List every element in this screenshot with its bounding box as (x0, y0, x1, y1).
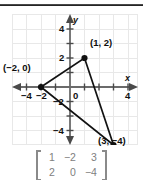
matrix-cell-r2c2: 0 (58, 165, 79, 180)
y-axis-label: y (73, 16, 78, 25)
matrix-cell-r1c3: 3 (79, 150, 100, 165)
y-tick-label-2: 2 (59, 53, 64, 63)
matrix: 1 −2 3 2 0 −4 (36, 150, 107, 180)
matrix-cell-r1c1: 1 (43, 150, 58, 165)
matrix-figure: 1 −2 3 2 0 −4 (0, 150, 143, 187)
matrix-left-bracket (36, 150, 42, 180)
coordinate-plane-svg (12, 14, 138, 145)
matrix-cell-r2c1: 2 (43, 165, 58, 180)
point-label-a: (−2, 0) (3, 63, 31, 73)
y-tick-label-minus-2: −2 (53, 97, 64, 107)
x-tick-label-origin: 0 (73, 91, 78, 101)
x-axis-label: x (125, 74, 130, 83)
matrix-table: 1 −2 3 2 0 −4 (43, 150, 100, 180)
x-axis-arrow-left (12, 83, 21, 91)
axis-arrowheads (12, 14, 138, 145)
top-divider-rule (0, 4, 143, 6)
x-tick-label-minus-4: −4 (21, 91, 32, 101)
axis-lines (15, 18, 133, 140)
y-tick-label-minus-4: −4 (53, 126, 64, 136)
y-tick-label-4: 4 (59, 24, 64, 34)
matrix-row: 1 −2 3 (43, 150, 100, 165)
matrix-right-bracket (101, 150, 107, 180)
point-label-b: (1, 2) (90, 38, 112, 48)
matrix-cell-r1c2: −2 (58, 150, 79, 165)
x-tick-label-minus-2: −2 (36, 91, 47, 101)
vertex-point-b (81, 55, 87, 61)
y-axis-arrow-down (66, 136, 74, 145)
matrix-row: 2 0 −4 (43, 165, 100, 180)
matrix-cell-r2c3: −4 (79, 165, 100, 180)
x-tick-label-4: 4 (125, 91, 130, 101)
point-label-c: (3, −4) (98, 136, 126, 146)
figure-canvas: y x 4 2 −2 −4 −4 −2 0 4 (−2, 0) (1, 2) (… (0, 0, 143, 187)
coordinate-plane: y x 4 2 −2 −4 −4 −2 0 4 (−2, 0) (1, 2) (… (12, 14, 138, 145)
x-axis-arrow-right (129, 83, 138, 91)
grid-lines (12, 14, 138, 145)
